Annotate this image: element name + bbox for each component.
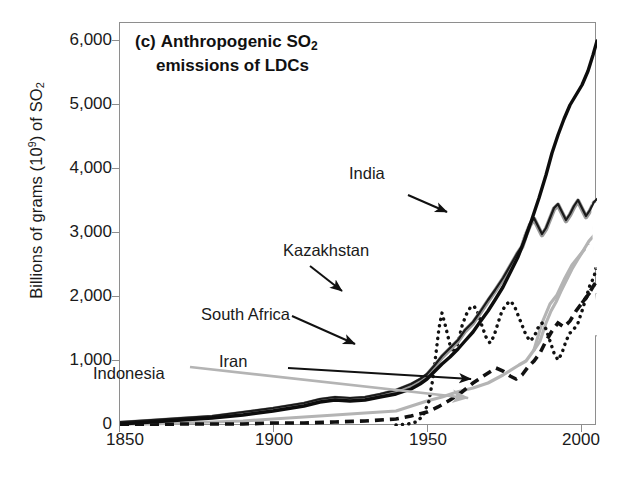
annotation-arrow-iran xyxy=(288,368,471,379)
chart-figure: Billions of grams (109) of SO2 6,000 5,0… xyxy=(0,0,621,484)
annotation-arrow-southafrica xyxy=(292,316,355,344)
chart-lines-svg xyxy=(120,23,597,426)
x-tick-label-1900: 1900 xyxy=(255,430,293,450)
series-line-iran xyxy=(120,287,597,425)
annotation-label-south-africa: South Africa xyxy=(201,305,290,324)
annotation-label-india: India xyxy=(349,164,385,183)
x-tick-label-1850: 1850 xyxy=(106,430,144,450)
annotation-label-kazakhstan: Kazakhstan xyxy=(283,241,369,260)
annotation-label-iran: Iran xyxy=(219,352,247,371)
y-tick-label-4000: 4,000 xyxy=(32,158,112,178)
y-tick-mark-5000 xyxy=(112,104,119,105)
annotation-arrow-kazakhstan xyxy=(310,266,342,291)
series-line-iran-fix xyxy=(594,287,597,293)
annotation-label-indonesia: Indonesia xyxy=(93,364,165,383)
annotation-arrow-india xyxy=(408,195,447,212)
y-tick-label-5000: 5,000 xyxy=(32,94,112,114)
x-tick-label-1950: 1950 xyxy=(409,430,447,450)
series-line-southafrica-shadow-fix xyxy=(594,203,597,267)
plot-area: (c)Anthropogenic SO2emissions of LDCs xyxy=(119,22,596,425)
y-tick-label-3000: 3,000 xyxy=(32,222,112,242)
annotation-arrow-indonesia xyxy=(190,367,468,398)
y-tick-mark-6000 xyxy=(112,40,119,41)
y-tick-mark-4000 xyxy=(112,168,119,169)
y-tick-mark-1000 xyxy=(112,360,119,361)
series-line-southafrica xyxy=(120,199,597,422)
y-tick-mark-3000 xyxy=(112,232,119,233)
y-tick-label-2000: 2,000 xyxy=(32,286,112,306)
y-tick-mark-2000 xyxy=(112,296,119,297)
y-tick-label-group: 6,000 5,000 4,000 3,000 2,000 1,000 0 xyxy=(28,0,112,484)
x-tick-label-2000: 2000 xyxy=(562,430,600,450)
y-tick-label-0: 0 xyxy=(32,414,112,434)
y-tick-label-6000: 6,000 xyxy=(32,30,112,50)
